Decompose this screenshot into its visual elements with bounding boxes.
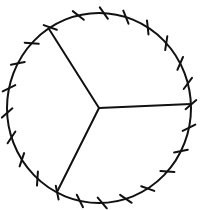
radius-upper-left [49, 29, 99, 108]
radius-right [99, 104, 191, 108]
tick-mark [20, 153, 25, 166]
tick-mark [174, 150, 188, 153]
tick-mark [120, 195, 132, 203]
tick-mark [147, 21, 149, 35]
tick-mark [8, 132, 16, 144]
radius-lower-left [57, 108, 99, 192]
tick-mark [11, 62, 25, 65]
tick-mark [37, 172, 38, 186]
circle-sector-diagram [0, 0, 207, 210]
tick-mark [25, 43, 39, 44]
tick-mark [141, 186, 154, 191]
tick-mark [165, 36, 167, 50]
tick-mark [44, 25, 57, 30]
tick-mark [160, 171, 174, 172]
